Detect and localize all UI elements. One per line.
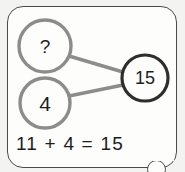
notch-mask (140, 146, 174, 161)
partial-circle-icon (147, 160, 166, 172)
bond-node-four-label: 4 (39, 92, 51, 115)
bond-node-whole-label: 15 (135, 68, 155, 88)
bond-edge-unknown-to-whole (69, 56, 123, 72)
bond-node-unknown-label: ? (40, 36, 51, 57)
equation-text: 11 + 4 = 15 (16, 133, 124, 155)
screenshot-root: ? 4 15 11 + 4 = 15 (0, 0, 185, 172)
bond-edge-four-to-whole (69, 85, 123, 96)
